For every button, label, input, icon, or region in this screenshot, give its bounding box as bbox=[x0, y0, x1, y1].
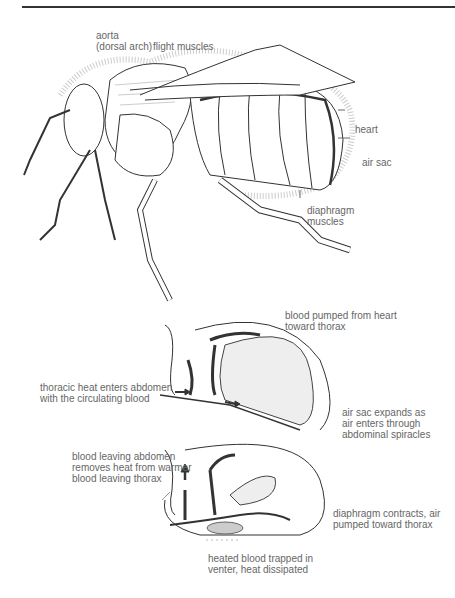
label-diaphragm-muscles: muscles bbox=[307, 216, 344, 227]
label-air-sac-expands-3: abdominal spiracles bbox=[342, 429, 430, 440]
label-flight-muscles: flight muscles bbox=[153, 41, 214, 52]
label-blood-leaving-2: removes heat from warmer bbox=[72, 462, 191, 473]
label-diaphragm: diaphragm bbox=[307, 205, 354, 216]
label-thoracic-heat-2: with the circulating blood bbox=[40, 393, 150, 404]
label-diaphragm-contracts: diaphragm contracts, air bbox=[333, 508, 440, 519]
label-heart: heart bbox=[355, 124, 378, 135]
label-diaphragm-contracts-2: pumped toward thorax bbox=[333, 519, 433, 530]
label-air-sac-expands: air sac expands as bbox=[342, 407, 425, 418]
label-aorta: aorta bbox=[96, 30, 119, 41]
label-heated-blood-2: venter, heat dissipated bbox=[208, 564, 308, 575]
label-air-sac: air sac bbox=[362, 157, 391, 168]
label-blood-leaving: blood leaving abdomen bbox=[72, 451, 175, 462]
label-aorta-sub: (dorsal arch) bbox=[96, 41, 152, 52]
label-thoracic-heat: thoracic heat enters abdomen bbox=[40, 382, 172, 393]
label-blood-leaving-3: blood leaving thorax bbox=[72, 473, 162, 484]
label-blood-pumped-2: toward thorax bbox=[285, 321, 346, 332]
label-air-sac-expands-2: air enters through bbox=[342, 418, 420, 429]
label-heated-blood: heated blood trapped in bbox=[208, 553, 313, 564]
label-blood-pumped: blood pumped from heart bbox=[285, 310, 397, 321]
